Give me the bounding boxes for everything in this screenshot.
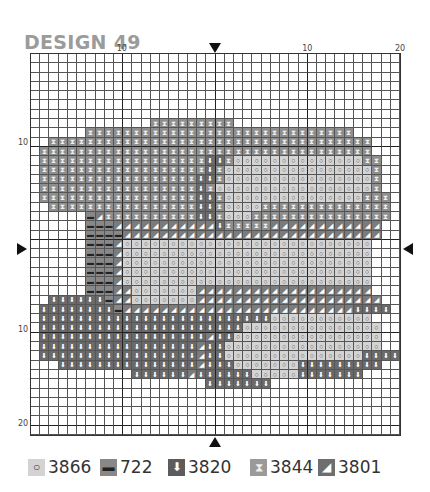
circle-icon: ○ [273, 166, 277, 173]
hourglass-icon: ⧗ [300, 129, 305, 136]
grid-cell [114, 63, 123, 72]
grid-cell: ○ [345, 268, 354, 277]
grid-cell [372, 63, 381, 72]
hourglass-icon: ⧗ [153, 166, 158, 173]
grid-cell [86, 370, 95, 379]
circle-icon: ○ [337, 185, 341, 192]
grid-cell: ○ [271, 156, 280, 165]
grid-cell [142, 398, 151, 407]
down-arrow-icon: ⬇ [152, 315, 158, 322]
down-arrow-icon: ⬇ [170, 333, 176, 340]
circle-icon: ○ [356, 333, 360, 340]
grid-cell [335, 119, 344, 128]
grid-cell: ⬇ [114, 342, 123, 351]
hourglass-icon: ⧗ [79, 203, 84, 210]
circle-icon: ○ [337, 343, 341, 350]
circle-icon: ○ [319, 194, 323, 201]
down-arrow-icon: ⬇ [198, 203, 204, 210]
grid-cell: ⧗ [151, 119, 160, 128]
grid-cell: ⧗ [132, 166, 141, 175]
grid-cell: ◢ [363, 221, 372, 230]
half-triangle-icon: ◢ [300, 306, 305, 313]
grid-cell [31, 249, 40, 258]
grid-cell [49, 63, 58, 72]
circle-icon: ○ [208, 259, 212, 266]
grid-cell: ⬇ [160, 370, 169, 379]
grid-cell: ⬇ [317, 361, 326, 370]
grid-cell: ⧗ [123, 193, 132, 202]
grid-cell: ⬇ [252, 379, 261, 388]
grid-cell [114, 398, 123, 407]
circle-icon: ○ [153, 259, 157, 266]
grid-cell: ⧗ [105, 212, 114, 221]
circle-icon: ○ [328, 315, 332, 322]
down-arrow-icon: ⬇ [189, 333, 195, 340]
circle-icon: ○ [291, 240, 295, 247]
grid-cell: ○ [225, 351, 234, 360]
grid-cell: ⧗ [151, 203, 160, 212]
circle-icon: ○ [328, 157, 332, 164]
grid-cell: ⧗ [326, 203, 335, 212]
grid-cell: ○ [142, 268, 151, 277]
down-arrow-icon: ⬇ [41, 352, 47, 359]
grid-cell: ⧗ [142, 138, 151, 147]
grid-cell: ○ [326, 240, 335, 249]
grid-cell: ○ [169, 277, 178, 286]
grid-cell: ⬇ [77, 333, 86, 342]
half-triangle-icon: ◢ [171, 231, 176, 238]
grid-cell: ⬇ [335, 370, 344, 379]
grid-cell: ◢ [271, 296, 280, 305]
grid-cell: ⧗ [289, 128, 298, 137]
grid-cell [391, 426, 400, 435]
hourglass-icon: ⧗ [245, 138, 250, 145]
grid-cell: ⧗ [160, 184, 169, 193]
hourglass-icon: ⧗ [189, 120, 194, 127]
grid-cell: ⬇ [105, 342, 114, 351]
grid-cell: ○ [252, 277, 261, 286]
hourglass-icon: ⧗ [125, 129, 130, 136]
grid-cell [280, 379, 289, 388]
grid-cell [151, 379, 160, 388]
circle-icon: ○ [347, 240, 351, 247]
grid-cell: ⬇ [216, 314, 225, 323]
hourglass-icon: ⧗ [217, 175, 222, 182]
grid-cell: ⬇ [206, 212, 215, 221]
circle-icon: ○ [227, 343, 231, 350]
grid-cell: ○ [271, 342, 280, 351]
hourglass-icon: ⧗ [106, 203, 111, 210]
grid-cell [77, 100, 86, 109]
grid-cell [391, 370, 400, 379]
grid-cell: ⧗ [354, 138, 363, 147]
down-arrow-icon: ⬇ [189, 324, 195, 331]
grid-cell [31, 212, 40, 221]
grid-cell: ⧗ [206, 119, 215, 128]
hourglass-icon: ⧗ [51, 203, 56, 210]
circle-icon: ○ [254, 333, 258, 340]
grid-cell: ○ [225, 166, 234, 175]
grid-cell: ○ [243, 240, 252, 249]
grid-cell: ○ [262, 184, 271, 193]
grid-cell: ⧗ [372, 203, 381, 212]
circle-icon: ○ [264, 352, 268, 359]
circle-icon: ○ [282, 185, 286, 192]
grid-cell: ○ [188, 277, 197, 286]
grid-cell [252, 73, 261, 82]
grid-cell: ⧗ [308, 212, 317, 221]
down-arrow-icon: ⬇ [207, 352, 213, 359]
grid-cell: ⬇ [326, 361, 335, 370]
grid-cell [216, 426, 225, 435]
grid-cell: ⬇ [262, 379, 271, 388]
grid-cell: ○ [160, 277, 169, 286]
grid-cell [40, 73, 49, 82]
grid-cell: ○ [345, 351, 354, 360]
grid-cell: ○ [326, 249, 335, 258]
circle-icon: ○ [337, 333, 341, 340]
hourglass-icon: ⧗ [319, 203, 324, 210]
grid-cell [123, 426, 132, 435]
down-arrow-icon: ⬇ [134, 371, 140, 378]
grid-cell: ○ [225, 342, 234, 351]
grid-cell [271, 379, 280, 388]
dash-icon: ▬ [87, 240, 94, 247]
circle-icon: ○ [365, 259, 369, 266]
grid-cell [68, 407, 77, 416]
